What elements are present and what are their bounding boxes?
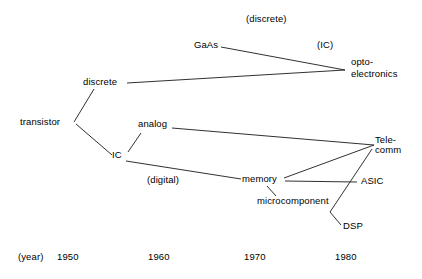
node-telecomm_line2[interactable]: comm xyxy=(375,144,401,155)
node-microcomponent[interactable]: microcomponent xyxy=(257,195,329,206)
edge-memory-asic xyxy=(285,181,357,182)
node-dsp[interactable]: DSP xyxy=(343,220,363,231)
node-analog[interactable]: analog xyxy=(138,118,167,129)
edge-analog-telecomm xyxy=(172,128,374,145)
node-ic[interactable]: IC xyxy=(112,149,122,160)
node-asic[interactable]: ASIC xyxy=(361,175,384,186)
edge-ic-memory xyxy=(126,161,241,179)
axis-tick-1980: 1980 xyxy=(335,251,357,262)
axis-tick-1950: 1950 xyxy=(57,251,79,262)
node-transistor[interactable]: transistor xyxy=(20,116,60,127)
node-opto_line2[interactable]: electronics xyxy=(351,68,398,79)
edge-transistor-discrete xyxy=(74,89,94,122)
edge-dsp-stub xyxy=(330,212,341,225)
axis-caption-year: (year) xyxy=(18,251,43,262)
axis-tick-1960: 1960 xyxy=(148,251,170,262)
axis-tick-1970: 1970 xyxy=(244,251,266,262)
technology-evolution-diagram: transistordiscreteICGaAsopto-electronics… xyxy=(0,0,422,279)
edge-gaas-opto xyxy=(221,47,345,70)
node-discrete[interactable]: discrete xyxy=(83,76,117,87)
annotation-annot_digital: (digital) xyxy=(147,174,179,185)
edge-discrete-opto xyxy=(127,70,345,83)
edge-memory-telecomm xyxy=(284,145,374,178)
node-memory[interactable]: memory xyxy=(242,173,277,184)
node-opto_line1[interactable]: opto- xyxy=(351,56,373,67)
edge-ic-analog xyxy=(128,133,141,152)
edge-transistor-ic xyxy=(76,124,112,155)
annotation-annot_ic: (IC) xyxy=(317,39,333,50)
annotation-annot_discrete: (discrete) xyxy=(246,13,287,24)
node-gaas[interactable]: GaAs xyxy=(194,39,218,50)
